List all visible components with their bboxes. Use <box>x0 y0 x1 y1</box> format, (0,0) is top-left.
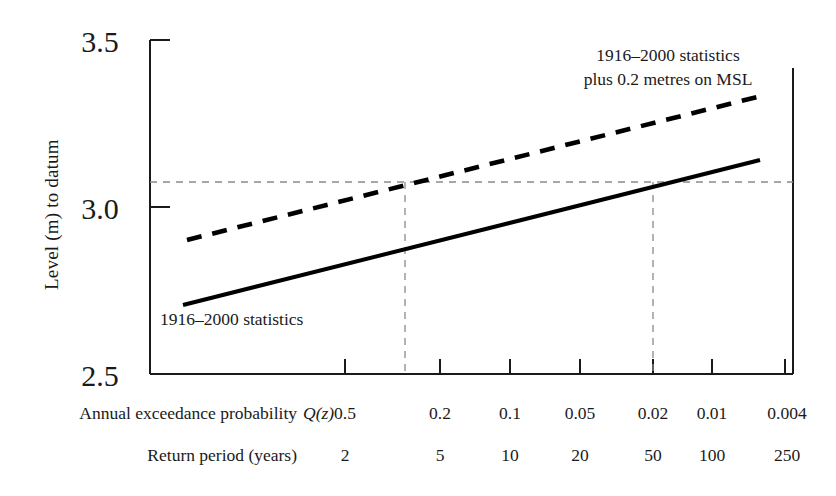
exceedance-probability-label: Annual exceedance probability <box>79 403 297 423</box>
y-tick-label-2-5: 2.5 <box>81 359 119 392</box>
dashed-series-annotation-line2: plus 0.2 metres on MSL <box>584 69 753 89</box>
dashed-series-annotation-line1: 1916–2000 statistics <box>596 45 740 65</box>
series-group <box>183 95 765 305</box>
bottom-row-exceedance-probability: Annual exceedance probability Q(z) 0.5 0… <box>79 403 807 423</box>
x-label-return-0: 2 <box>341 445 350 465</box>
y-tick-label-3-0: 3.0 <box>81 192 119 225</box>
x-label-return-2: 10 <box>501 445 519 465</box>
x-label-return-5: 100 <box>699 445 726 465</box>
dashed-series-annotation: 1916–2000 statistics plus 0.2 metres on … <box>584 45 753 89</box>
return-period-label: Return period (years) <box>147 445 297 465</box>
x-label-prob-4: 0.02 <box>638 403 669 423</box>
x-label-prob-0: 0.5 <box>334 403 356 423</box>
y-tick-label-3-5: 3.5 <box>81 25 119 58</box>
x-label-prob-6: 0.004 <box>767 403 807 423</box>
x-label-prob-1: 0.2 <box>429 403 451 423</box>
x-axis-ticks <box>345 359 785 374</box>
x-label-return-3: 20 <box>571 445 589 465</box>
flood-frequency-chart: Level (m) to datum 3.5 3.0 2.5 <box>0 0 836 496</box>
x-label-prob-5: 0.01 <box>697 403 728 423</box>
y-axis-title: Level (m) to datum <box>41 139 63 290</box>
solid-series-annotation-line1: 1916–2000 statistics <box>160 309 304 329</box>
y-axis-tick-labels: 3.5 3.0 2.5 <box>81 25 119 392</box>
x-label-return-1: 5 <box>436 445 445 465</box>
y-axis-title-text: Level (m) to datum <box>41 139 63 290</box>
solid-series-annotation: 1916–2000 statistics <box>160 309 304 329</box>
x-label-prob-2: 0.1 <box>499 403 521 423</box>
reference-guides <box>150 182 793 374</box>
x-label-return-4: 50 <box>644 445 662 465</box>
exceedance-probability-symbol: Q(z) <box>303 403 334 423</box>
x-label-return-6: 250 <box>774 445 801 465</box>
bottom-row-return-period: Return period (years) 2 5 10 20 50 100 2… <box>147 445 800 465</box>
x-label-prob-3: 0.05 <box>565 403 596 423</box>
series-line-dashed-msl-adjusted <box>187 95 765 240</box>
